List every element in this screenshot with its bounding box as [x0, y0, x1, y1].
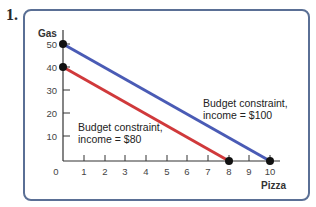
- svg-text:9: 9: [246, 166, 251, 177]
- svg-text:7: 7: [205, 166, 210, 177]
- annotation-income-100: Budget constraint, income = $100: [203, 97, 288, 121]
- annotation-income-80: Budget constraint, income = $80: [78, 121, 163, 145]
- svg-text:20: 20: [46, 108, 57, 119]
- budget-constraint-chart: 50 40 30 20 10 0 1 2 3 4 5 6 7 8 9 10 Ga…: [0, 0, 316, 207]
- svg-text:income = $80: income = $80: [78, 133, 141, 145]
- svg-text:8: 8: [226, 166, 231, 177]
- svg-text:Budget constraint,: Budget constraint,: [203, 97, 288, 109]
- svg-text:4: 4: [143, 166, 148, 177]
- svg-text:6: 6: [184, 166, 189, 177]
- svg-text:1: 1: [81, 166, 86, 177]
- svg-text:5: 5: [164, 166, 169, 177]
- svg-text:40: 40: [46, 62, 57, 73]
- svg-text:Budget constraint,: Budget constraint,: [78, 121, 163, 133]
- svg-text:2: 2: [102, 166, 107, 177]
- svg-text:income = $100: income = $100: [203, 109, 272, 121]
- y-ticks: 50 40 30 20 10: [46, 39, 70, 142]
- svg-text:10: 10: [265, 166, 276, 177]
- x-axis-label: Pizza: [261, 180, 286, 191]
- svg-text:50: 50: [46, 39, 57, 50]
- x-ticks: 0 1 2 3 4 5 6 7 8 9 10: [53, 155, 275, 177]
- svg-text:3: 3: [122, 166, 127, 177]
- svg-text:30: 30: [46, 85, 57, 96]
- svg-text:0: 0: [53, 166, 58, 177]
- y-axis-label: Gas: [38, 28, 57, 39]
- svg-text:10: 10: [46, 131, 57, 142]
